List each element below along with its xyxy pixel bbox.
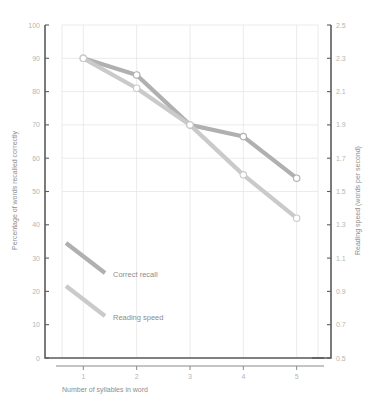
data-point-marker <box>240 172 246 178</box>
legend-label-correct-recall: Correct recall <box>113 270 158 279</box>
y-axis-tick-label: 100 <box>28 22 40 29</box>
y2-axis-tick-label: 1.7 <box>336 155 346 162</box>
y2-axis-tick-label: 1.1 <box>336 255 346 262</box>
y2-axis-tick-label: 0.5 <box>336 355 346 362</box>
y-axis-title: Percentage of words recalled correctly <box>11 130 19 250</box>
x-axis-title: Number of syllables in word <box>62 386 148 394</box>
data-point-marker <box>80 55 86 61</box>
data-point-marker <box>240 133 246 139</box>
legend-label-reading-speed: Reading speed <box>113 313 163 322</box>
x-axis-tick-label: 5 <box>295 373 299 380</box>
chart-container: 0102030405060708090100 0.50.70.91.11.31.… <box>0 0 374 410</box>
y2-axis-tick-label: 1.9 <box>336 121 346 128</box>
y2-axis-title: Reading speed (words per second) <box>354 146 362 255</box>
y2-axis-tick-label: 0.7 <box>336 321 346 328</box>
data-point-marker <box>293 215 299 221</box>
y-axis-tick-label: 50 <box>32 188 40 195</box>
data-point-marker <box>293 175 299 181</box>
data-point-marker <box>133 72 139 78</box>
data-point-marker <box>187 122 193 128</box>
y-axis-tick-label: 60 <box>32 155 40 162</box>
data-point-marker <box>133 85 139 91</box>
y2-axis-tick-label: 2.3 <box>336 55 346 62</box>
x-axis-tick-label: 4 <box>241 373 245 380</box>
y2-axis-tick-label: 2.1 <box>336 88 346 95</box>
x-axis-tick-label: 3 <box>188 373 192 380</box>
y2-axis-tick-label: 1.5 <box>336 188 346 195</box>
y-axis-tick-label: 30 <box>32 255 40 262</box>
x-axis-tick-label: 1 <box>81 373 85 380</box>
y2-axis-tick-label: 0.9 <box>336 288 346 295</box>
y-axis-tick-label: 90 <box>32 55 40 62</box>
y-axis-tick-label: 40 <box>32 221 40 228</box>
y2-axis-tick-label: 2.5 <box>336 22 346 29</box>
y-axis-tick-label: 20 <box>32 288 40 295</box>
y-axis-tick-label: 70 <box>32 121 40 128</box>
line-chart: 0102030405060708090100 0.50.70.91.11.31.… <box>0 0 374 410</box>
y2-axis-tick-label: 1.3 <box>336 221 346 228</box>
y-axis-tick-label: 0 <box>36 355 40 362</box>
y-axis-tick-label: 10 <box>32 321 40 328</box>
x-axis-tick-label: 2 <box>135 373 139 380</box>
y-axis-tick-label: 80 <box>32 88 40 95</box>
